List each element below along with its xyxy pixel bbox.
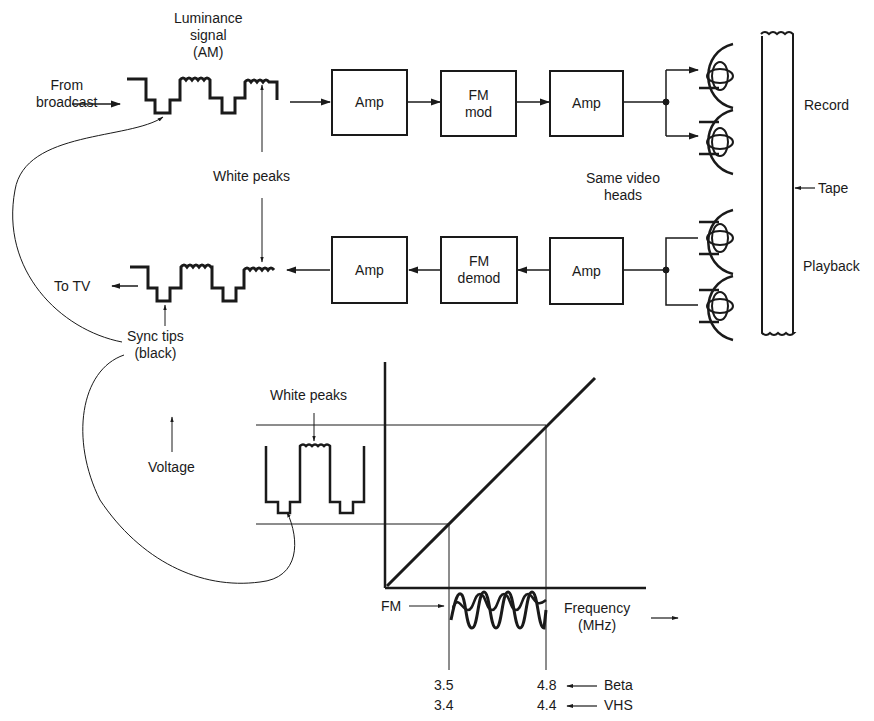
white-peaks-label-top: White peaks [213,168,290,185]
graph-voltage-waveform [266,445,364,514]
block-label: Amp [355,262,384,279]
block-label: Amp [572,95,601,112]
playback-split [666,238,698,305]
from-broadcast-label: From broadcast [36,77,97,111]
fm-label: FM [381,598,401,615]
vhs-low-tick: 3.4 [434,697,453,714]
frequency-label: Frequency (MHz) [564,600,630,634]
sync-tips-label: Sync tips (black) [127,328,184,362]
same-video-heads-label: Same video heads [586,170,660,204]
graph-white-peaks-label: White peaks [270,387,347,404]
voltage-label: Voltage [148,459,195,476]
tape-label: Tape [818,180,848,197]
video-head-playback-2 [699,276,733,340]
to-tv-label: To TV [54,278,90,295]
video-head-playback-1 [699,210,733,274]
tape [761,32,794,335]
luminance-waveform-top [127,78,277,113]
video-head-record-1 [699,44,733,108]
beta-low-tick: 3.5 [434,677,453,694]
block-label: Amp [572,263,601,280]
playback-label: Playback [803,258,860,275]
record-amp-1: Amp [331,69,408,136]
luminance-signal-label: Luminance signal (AM) [174,10,243,61]
transfer-line [387,378,595,586]
luminance-waveform-bottom [130,265,274,301]
block-label: FM demod [458,253,501,287]
fm-mod-block: FM mod [440,70,517,137]
record-amp-2: Amp [549,70,624,137]
record-label: Record [804,97,849,114]
beta-high-tick: 4.8 [537,677,556,694]
beta-label: Beta [604,677,633,694]
fm-demod-block: FM demod [440,236,518,304]
vhs-high-tick: 4.4 [537,697,556,714]
playback-amp-1: Amp [549,237,624,305]
block-label: FM mod [465,87,492,121]
playback-amp-2: Amp [331,236,408,304]
video-head-record-2 [699,110,733,174]
sync-curve-upper [13,117,163,342]
vhs-label: VHS [604,697,633,714]
block-label: Amp [355,94,384,111]
